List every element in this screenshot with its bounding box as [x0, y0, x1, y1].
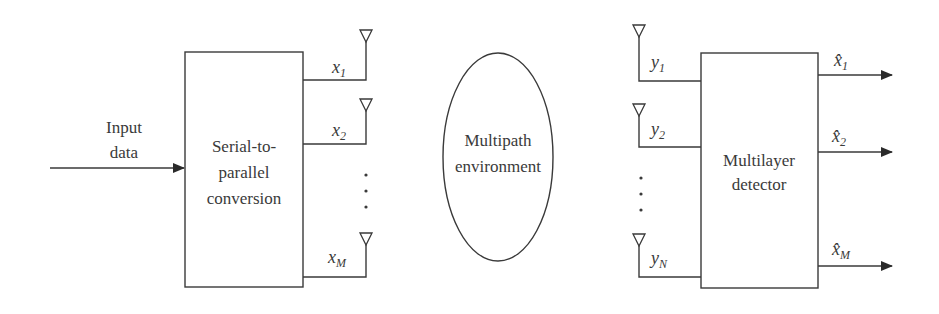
s2p-label-line3: conversion [207, 189, 282, 208]
antenna-icon [360, 30, 372, 42]
channel-label-line2: environment [455, 157, 541, 176]
rx-input-label: yN [649, 248, 668, 271]
rx-antenna-lines [639, 36, 701, 277]
antenna-icon [360, 99, 372, 111]
tx-output-label: xM [327, 247, 347, 270]
tx-output-label: x1 [331, 57, 346, 80]
antenna-icon [360, 233, 372, 245]
input-label-line2: data [110, 143, 139, 162]
antenna-icon [633, 104, 645, 116]
s2p-label-line2: parallel [219, 163, 270, 182]
input-label-line1: Input [106, 118, 142, 137]
channel-label-line1: Multipath [464, 131, 532, 150]
detector-label-line1: Multilayer [723, 151, 795, 170]
antenna-icon [633, 234, 645, 246]
rx-output-label: x̂2 [831, 126, 846, 149]
detector-label-line2: detector [732, 175, 787, 194]
rx-output-label: x̂M [831, 239, 851, 262]
mimo-diagram: Input data Serial-to- parallel conversio… [0, 0, 939, 314]
rx-input-label: y2 [649, 119, 665, 142]
rx-ellipsis-dots [639, 176, 642, 211]
rx-output-label: x̂1 [833, 50, 848, 73]
rx-input-label: y1 [649, 52, 665, 75]
s2p-label-line1: Serial-to- [212, 137, 277, 156]
tx-output-label: x2 [331, 120, 346, 143]
tx-ellipsis-dots [364, 173, 367, 208]
output-arrows [818, 75, 892, 266]
multilayer-detector-block [701, 53, 818, 288]
antenna-icon [633, 25, 645, 37]
